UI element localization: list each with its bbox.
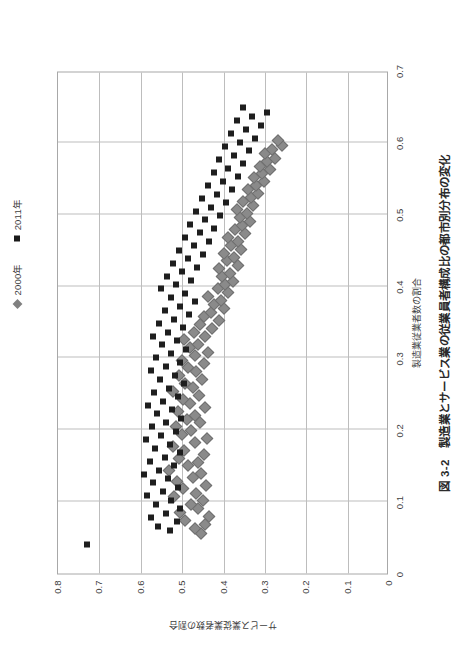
gridline-horizontal — [348, 72, 349, 573]
data-point-2011 — [163, 363, 169, 369]
data-point-2011 — [158, 285, 164, 291]
data-point-2011 — [145, 402, 151, 408]
data-point-2011 — [172, 372, 178, 378]
data-point-2011 — [164, 273, 170, 279]
gridline-vertical — [58, 141, 387, 142]
data-point-2011 — [182, 290, 188, 296]
data-point-2011 — [183, 346, 189, 352]
data-point-2011 — [240, 160, 246, 166]
data-point-2011 — [153, 354, 159, 360]
data-point-2011 — [243, 126, 249, 132]
y-axis-tick-label: 0.3 — [258, 580, 269, 608]
data-point-2011 — [168, 294, 174, 300]
x-axis-tick-label: 0.4 — [394, 280, 405, 293]
data-point-2011 — [158, 432, 164, 438]
data-point-2011 — [174, 337, 180, 343]
data-point-2011 — [150, 333, 156, 339]
data-point-2011 — [258, 122, 264, 128]
data-point-2011 — [234, 117, 240, 123]
x-axis-tick-label: 0.3 — [394, 352, 405, 365]
data-point-2000 — [199, 401, 212, 414]
data-point-2011 — [168, 350, 174, 356]
data-point-2011 — [229, 186, 235, 192]
gridline-horizontal — [99, 72, 100, 573]
data-point-2011 — [193, 208, 199, 214]
gridline-vertical — [58, 428, 387, 429]
data-point-2011 — [191, 242, 197, 248]
data-point-2011 — [152, 445, 158, 451]
data-point-2011 — [235, 173, 241, 179]
data-point-2011 — [157, 376, 163, 382]
data-point-2011 — [197, 229, 203, 235]
plot-area — [57, 71, 388, 574]
legend-entry-2000: 2000年 — [10, 263, 24, 307]
y-axis-tick-label: 0.2 — [300, 580, 311, 608]
x-axis-tick-label: 0.5 — [394, 208, 405, 221]
data-point-2011 — [144, 492, 150, 498]
gridline-vertical — [58, 500, 387, 501]
data-point-2011 — [162, 307, 168, 313]
data-point-2011 — [182, 234, 188, 240]
data-point-2011 — [187, 221, 193, 227]
y-axis-tick-label: 0.8 — [52, 580, 63, 608]
data-point-2011 — [155, 523, 161, 529]
x-axis-tick-label: 0.7 — [394, 64, 405, 77]
data-point-2011 — [174, 518, 180, 524]
data-point-2011 — [167, 441, 173, 447]
figure-title: 図 3-2 製造業とサービス業の従業員者構成比の都市別分布の変化 — [436, 154, 452, 491]
data-point-2011 — [171, 462, 177, 468]
data-point-2011 — [156, 467, 162, 473]
data-point-2011 — [200, 251, 206, 257]
data-point-2011 — [178, 415, 184, 421]
data-point-2011 — [211, 225, 217, 231]
legend-label-2011: 2011年 — [10, 198, 24, 229]
data-point-2011 — [173, 281, 179, 287]
data-point-2000 — [201, 432, 214, 445]
diamond-icon — [12, 299, 22, 309]
x-axis-tick-label: 0.2 — [394, 424, 405, 437]
data-point-2011 — [208, 204, 214, 210]
data-point-2011 — [154, 410, 160, 416]
data-point-2011 — [156, 320, 162, 326]
data-point-2011 — [175, 484, 181, 490]
data-point-2011 — [199, 195, 205, 201]
chart-legend: 2000年 2011年 — [10, 198, 24, 307]
y-axis-tick-label: 0.1 — [341, 580, 352, 608]
data-point-2011 — [141, 471, 147, 477]
data-point-2011 — [225, 165, 231, 171]
y-axis-tick-label: 0.5 — [176, 580, 187, 608]
data-point-2011 — [165, 329, 171, 335]
x-axis-label: 製造業従業者数の割合 — [410, 278, 423, 368]
y-axis-tick-label: 0 — [383, 580, 394, 608]
data-point-2011 — [252, 135, 258, 141]
gridline-horizontal — [306, 72, 307, 573]
data-point-2011 — [162, 454, 168, 460]
legend-entry-2011: 2011年 — [10, 198, 24, 240]
data-point-2011 — [168, 497, 174, 503]
data-point-2011 — [149, 423, 155, 429]
gridline-vertical — [58, 356, 387, 357]
y-axis-tick-label: 0.7 — [93, 580, 104, 608]
data-point-2011 — [177, 303, 183, 309]
data-point-2011 — [166, 385, 172, 391]
data-point-2011 — [160, 398, 166, 404]
data-point-2011 — [177, 449, 183, 455]
data-point-2011 — [148, 514, 154, 520]
data-point-2011 — [222, 143, 228, 149]
square-icon — [14, 235, 20, 241]
legend-label-2000: 2000年 — [10, 263, 24, 295]
x-axis-tick-label: 0.1 — [394, 496, 405, 509]
data-point-2011 — [220, 178, 226, 184]
data-point-2011 — [159, 342, 165, 348]
data-point-2011 — [194, 264, 200, 270]
data-point-2011 — [147, 458, 153, 464]
data-point-2011 — [264, 109, 270, 115]
data-point-2011 — [214, 191, 220, 197]
data-point-2011 — [143, 436, 149, 442]
data-point-2000 — [188, 436, 201, 449]
data-point-2011 — [84, 541, 90, 547]
data-point-2011 — [177, 505, 183, 511]
x-axis-tick-label: 0.6 — [394, 136, 405, 149]
